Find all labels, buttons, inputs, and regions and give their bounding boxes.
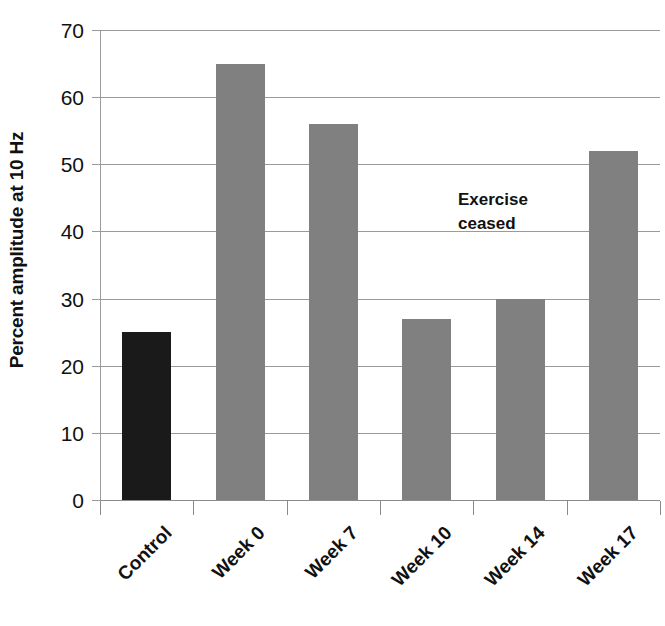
- gridline-50: [100, 164, 660, 165]
- bar-week-17[interactable]: [589, 151, 638, 500]
- y-tick-mark-40: [92, 231, 101, 232]
- gridline-40: [100, 231, 660, 232]
- x-tick-mark-1: [193, 501, 194, 515]
- x-tick-label-week-0: Week 0: [208, 522, 270, 584]
- x-tick-label-text: Control: [113, 522, 176, 585]
- y-tick-mark-30: [92, 299, 101, 300]
- gridline-30: [100, 299, 660, 300]
- bar-week-7[interactable]: [309, 124, 358, 500]
- plot-area: Exercise ceased: [100, 30, 660, 500]
- bar-control[interactable]: [122, 332, 171, 500]
- x-tick-label-text: Week 0: [208, 522, 270, 584]
- x-tick-label-text: Week 10: [387, 522, 456, 591]
- gridline-60: [100, 97, 660, 98]
- x-tick-mark-5: [567, 501, 568, 515]
- x-tick-label-week-7: Week 7: [301, 522, 363, 584]
- x-tick-label-week-10: Week 10: [387, 522, 456, 591]
- x-tick-label-text: Week 14: [480, 522, 549, 591]
- bar-week-0[interactable]: [216, 64, 265, 500]
- y-tick-label-60: 60: [61, 87, 84, 108]
- gridline-10: [100, 433, 660, 434]
- y-axis-title-text: Percent amplitude at 10 Hz: [6, 132, 28, 369]
- x-tick-mark-0: [100, 501, 101, 515]
- y-tick-label-10: 10: [61, 422, 84, 443]
- y-tick-label-20: 20: [61, 355, 84, 376]
- x-tick-label-week-14: Week 14: [480, 522, 549, 591]
- y-tick-mark-70: [92, 30, 101, 31]
- gridline-20: [100, 366, 660, 367]
- x-tick-mark-2: [287, 501, 288, 515]
- x-tick-mark-4: [473, 501, 474, 515]
- y-axis-title: Percent amplitude at 10 Hz: [0, 0, 34, 500]
- y-tick-label-0: 0: [72, 490, 84, 511]
- x-tick-mark-end: [660, 501, 661, 515]
- x-tick-label-control: Control: [113, 522, 176, 585]
- bar-week-14[interactable]: [496, 299, 545, 500]
- y-tick-label-30: 30: [61, 288, 84, 309]
- x-tick-label-text: Week 17: [574, 522, 643, 591]
- x-tick-mark-3: [380, 501, 381, 515]
- y-tick-label-50: 50: [61, 154, 84, 175]
- y-tick-label-70: 70: [61, 20, 84, 41]
- bar-chart: Percent amplitude at 10 Hz 0102030405060…: [0, 0, 665, 626]
- y-tick-mark-10: [92, 433, 101, 434]
- y-axis-tick-labels: 010203040506070: [36, 30, 92, 500]
- y-tick-mark-60: [92, 97, 101, 98]
- x-tick-label-week-17: Week 17: [574, 522, 643, 591]
- y-tick-mark-20: [92, 366, 101, 367]
- gridline-70: [100, 30, 660, 31]
- annotation-exercise-ceased: Exercise ceased: [458, 188, 528, 237]
- bar-week-10[interactable]: [402, 319, 451, 500]
- y-tick-label-40: 40: [61, 221, 84, 242]
- y-tick-mark-50: [92, 164, 101, 165]
- x-tick-label-text: Week 7: [301, 522, 363, 584]
